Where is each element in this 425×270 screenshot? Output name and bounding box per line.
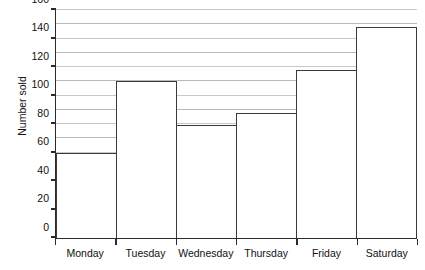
y-axis-tick bbox=[51, 179, 56, 181]
x-axis-tick bbox=[357, 239, 358, 245]
y-axis-tick-label: 80 bbox=[37, 107, 49, 119]
bar-wednesday bbox=[176, 125, 238, 238]
y-axis-tick bbox=[51, 122, 56, 124]
x-axis-tick bbox=[115, 239, 116, 245]
bar-saturday bbox=[356, 27, 418, 238]
y-axis-tick-label: 160 bbox=[31, 0, 49, 5]
x-axis-label-friday: Friday bbox=[296, 247, 356, 259]
y-axis-tick bbox=[51, 94, 56, 96]
y-axis-tick-label: 120 bbox=[31, 50, 49, 62]
bar-series bbox=[56, 10, 417, 238]
y-axis-title: Number sold bbox=[16, 41, 28, 171]
y-axis-tick-label: 0 bbox=[43, 221, 49, 233]
bar-monday bbox=[56, 153, 118, 239]
bar-tuesday bbox=[116, 81, 178, 238]
y-axis-tick-label: 40 bbox=[37, 164, 49, 176]
x-axis-label-monday: Monday bbox=[55, 247, 115, 259]
y-axis-tick-label: 60 bbox=[37, 135, 49, 147]
x-axis-tick bbox=[236, 239, 237, 245]
x-axis-tick bbox=[176, 239, 177, 245]
x-axis-label-tuesday: Tuesday bbox=[115, 247, 175, 259]
y-axis-tick bbox=[51, 37, 56, 39]
y-axis-tick bbox=[51, 8, 56, 10]
y-axis-tick-label: 20 bbox=[37, 192, 49, 204]
x-axis-tick bbox=[417, 239, 418, 245]
bar-thursday bbox=[236, 113, 298, 238]
y-axis-tick bbox=[51, 236, 56, 238]
x-axis-tick-labels: MondayTuesdayWednesdayThursdayFridaySatu… bbox=[55, 247, 417, 259]
y-axis-tick bbox=[51, 208, 56, 210]
y-axis-tick-label: 140 bbox=[31, 21, 49, 33]
x-axis-label-wednesday: Wednesday bbox=[176, 247, 236, 259]
plot-area: 020406080100120140160 bbox=[55, 10, 417, 239]
bar-friday bbox=[296, 70, 358, 238]
bar-chart: Number sold 020406080100120140160 Monday… bbox=[0, 0, 425, 270]
x-axis-label-saturday: Saturday bbox=[357, 247, 417, 259]
x-axis: MondayTuesdayWednesdayThursdayFridaySatu… bbox=[55, 239, 417, 269]
x-axis-tick bbox=[55, 239, 56, 245]
x-axis-tick bbox=[296, 239, 297, 245]
x-axis-label-thursday: Thursday bbox=[236, 247, 296, 259]
y-axis-tick-label: 100 bbox=[31, 78, 49, 90]
y-axis-tick bbox=[51, 151, 56, 153]
y-axis-tick bbox=[51, 65, 56, 67]
